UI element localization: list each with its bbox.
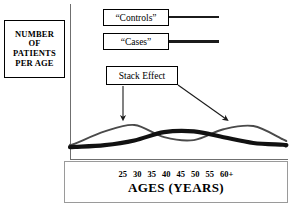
x-axis-tick-4: 45 bbox=[177, 169, 186, 179]
x-axis-tick-0: 25 bbox=[119, 169, 128, 179]
figure-canvas: NUMBER OF PATIENTS PER AGE “Controls” “C… bbox=[0, 0, 296, 207]
x-axis-label-box: 2530354045505560+ AGES (YEARS) bbox=[64, 161, 288, 203]
x-axis-tick-7: 60+ bbox=[220, 169, 233, 179]
x-axis-tick-6: 55 bbox=[206, 169, 215, 179]
x-axis-tick-3: 40 bbox=[162, 169, 171, 179]
x-axis-tick-2: 35 bbox=[148, 169, 157, 179]
stack-effect-arrow-right bbox=[178, 85, 226, 119]
x-axis-tick-row: 2530354045505560+ bbox=[119, 169, 234, 179]
x-axis-title: AGES (YEARS) bbox=[128, 180, 224, 196]
x-axis-tick-1: 30 bbox=[133, 169, 142, 179]
x-axis-tick-5: 50 bbox=[191, 169, 200, 179]
